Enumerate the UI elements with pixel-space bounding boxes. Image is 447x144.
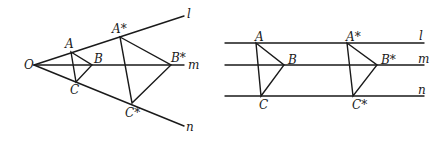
label-m: m <box>418 52 429 66</box>
label-b: B <box>93 52 103 66</box>
label-c-star: C* <box>125 106 140 120</box>
label-a-star: A* <box>111 22 127 36</box>
parallel-projection-figure: l m n A B C A* B* C* <box>225 29 429 112</box>
diagram-canvas: O l m n A B C A* B* C* l m n A B C A* B*… <box>0 0 447 144</box>
label-n: n <box>418 83 426 97</box>
triangle-abc <box>71 52 92 82</box>
label-o: O <box>24 58 34 72</box>
label-m: m <box>188 58 199 72</box>
triangle-abc-star <box>120 37 171 103</box>
label-b: B <box>287 53 297 67</box>
label-b-star: B* <box>380 53 396 67</box>
central-projection-figure: O l m n A B C A* B* C* <box>24 7 199 134</box>
label-l: l <box>187 7 191 21</box>
label-c: C <box>70 83 79 97</box>
label-a: A <box>64 37 74 51</box>
triangle-abc <box>256 43 284 96</box>
label-a-star: A* <box>345 30 361 44</box>
label-n: n <box>186 120 194 134</box>
ray-l <box>34 16 184 65</box>
triangle-abc-star <box>347 43 377 96</box>
label-c-star: C* <box>352 98 367 112</box>
label-a: A <box>254 30 264 44</box>
label-l: l <box>419 29 423 43</box>
label-c: C <box>259 98 268 112</box>
label-b-star: B* <box>170 51 186 65</box>
